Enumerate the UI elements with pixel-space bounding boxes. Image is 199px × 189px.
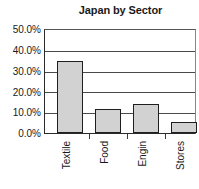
x-axis-tick-1 [89, 134, 90, 139]
chart-title: Japan by Sector [44, 4, 197, 17]
x-axis-tick-3 [165, 134, 166, 139]
y-axis-tick-label-40: 40.0% [0, 46, 41, 56]
y-axis-tick-label-30: 30.0% [0, 67, 41, 77]
y-axis-tick-label-50: 50.0% [0, 25, 41, 35]
bar-stores [171, 122, 197, 133]
gridline-40 [45, 51, 195, 52]
y-axis-tick-label-0: 0.0% [0, 129, 41, 139]
x-axis-tick-2 [127, 134, 128, 139]
y-axis-tick-label-20: 20.0% [0, 88, 41, 98]
plot-area [44, 29, 196, 134]
x-axis-label-engin: Engin [138, 141, 148, 167]
bar-textile [57, 61, 83, 133]
bar-engin [133, 104, 159, 133]
bar-chart: Japan by Sector 50.0% 40.0% 30.0% 20.0% … [0, 0, 199, 189]
x-axis-label-food: Food [100, 141, 110, 164]
bar-food [95, 109, 121, 133]
x-axis-label-textile: Textile [62, 141, 72, 169]
y-axis-tick-label-10: 10.0% [0, 108, 41, 118]
x-axis-label-stores: Stores [176, 141, 186, 170]
